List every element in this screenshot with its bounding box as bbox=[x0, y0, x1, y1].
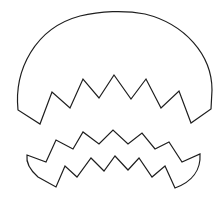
drawing-canvas bbox=[0, 0, 222, 212]
top-shell-fragment bbox=[18, 12, 212, 124]
line-drawing bbox=[0, 0, 222, 212]
bottom-shell-fragment bbox=[27, 130, 200, 188]
